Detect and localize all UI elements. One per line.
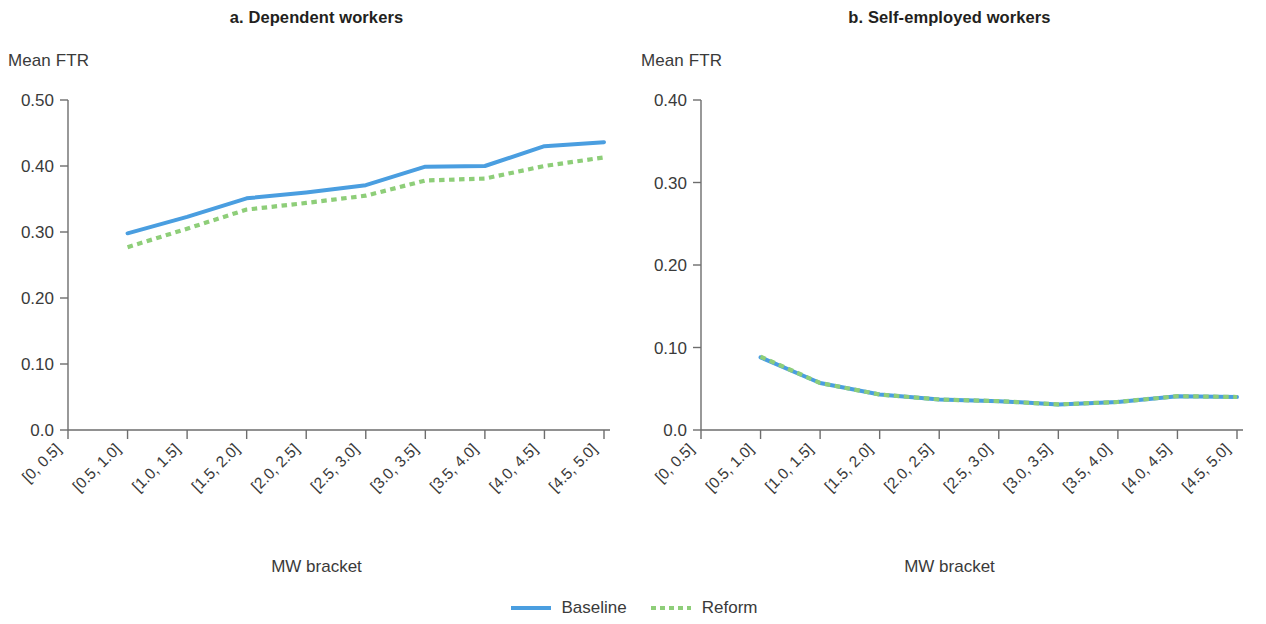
svg-text:[2.5, 3.0]: [2.5, 3.0]: [307, 440, 362, 495]
svg-text:[0.5, 1.0]: [0.5, 1.0]: [702, 440, 757, 495]
svg-text:0.40: 0.40: [21, 157, 54, 176]
svg-text:0.20: 0.20: [654, 256, 687, 275]
legend-item-reform: Reform: [649, 598, 758, 618]
panel-b-x-axis-label: MW bracket: [633, 557, 1266, 577]
svg-text:0.10: 0.10: [654, 339, 687, 358]
figure-two-panel-line-chart: a. Dependent workers Mean FTR 0.500.400.…: [0, 0, 1266, 624]
svg-text:[3.5, 4.0]: [3.5, 4.0]: [1059, 440, 1114, 495]
panel-self-employed-workers: b. Self-employed workers Mean FTR 0.400.…: [633, 0, 1266, 592]
svg-text:0.0: 0.0: [30, 421, 54, 440]
svg-text:[0, 0.5]: [0, 0.5]: [19, 440, 65, 486]
svg-text:[2.5, 3.0]: [2.5, 3.0]: [940, 440, 995, 495]
svg-text:[1.5, 2.0]: [1.5, 2.0]: [188, 440, 243, 495]
svg-text:[1.5, 2.0]: [1.5, 2.0]: [821, 440, 876, 495]
svg-text:[0, 0.5]: [0, 0.5]: [652, 440, 698, 486]
panel-dependent-workers: a. Dependent workers Mean FTR 0.500.400.…: [0, 0, 633, 592]
svg-text:0.50: 0.50: [21, 91, 54, 110]
svg-text:[4.0, 4.5]: [4.0, 4.5]: [1119, 440, 1174, 495]
legend-label-reform: Reform: [702, 598, 758, 618]
svg-text:[3.0, 3.5]: [3.0, 3.5]: [1000, 440, 1055, 495]
svg-text:0.30: 0.30: [21, 223, 54, 242]
svg-text:[1.0, 1.5]: [1.0, 1.5]: [129, 440, 184, 495]
panel-a-x-axis-label: MW bracket: [0, 557, 633, 577]
svg-text:0.30: 0.30: [654, 174, 687, 193]
panel-a-plot-area: 0.500.400.300.200.100.0[0, 0.5][0.5, 1.0…: [0, 0, 633, 592]
legend-label-baseline: Baseline: [562, 598, 627, 618]
svg-text:[4.5, 5.0]: [4.5, 5.0]: [1178, 440, 1233, 495]
svg-text:0.0: 0.0: [663, 421, 687, 440]
chart-legend: Baseline Reform: [0, 592, 1266, 624]
panel-container: a. Dependent workers Mean FTR 0.500.400.…: [0, 0, 1266, 592]
legend-swatch-reform-icon: [649, 602, 693, 614]
svg-text:[4.0, 4.5]: [4.0, 4.5]: [486, 440, 541, 495]
svg-text:0.10: 0.10: [21, 355, 54, 374]
panel-b-plot-area: 0.400.300.200.100.0[0, 0.5][0.5, 1.0][1.…: [633, 0, 1266, 592]
legend-item-baseline: Baseline: [509, 598, 627, 618]
svg-text:[0.5, 1.0]: [0.5, 1.0]: [69, 440, 124, 495]
svg-text:[2.0, 2.5]: [2.0, 2.5]: [248, 440, 303, 495]
svg-text:[1.0, 1.5]: [1.0, 1.5]: [762, 440, 817, 495]
svg-text:[4.5, 5.0]: [4.5, 5.0]: [545, 440, 600, 495]
svg-text:[3.5, 4.0]: [3.5, 4.0]: [426, 440, 481, 495]
legend-swatch-baseline-icon: [509, 602, 553, 614]
svg-text:[3.0, 3.5]: [3.0, 3.5]: [367, 440, 422, 495]
svg-text:0.20: 0.20: [21, 289, 54, 308]
svg-text:0.40: 0.40: [654, 91, 687, 110]
svg-text:[2.0, 2.5]: [2.0, 2.5]: [881, 440, 936, 495]
